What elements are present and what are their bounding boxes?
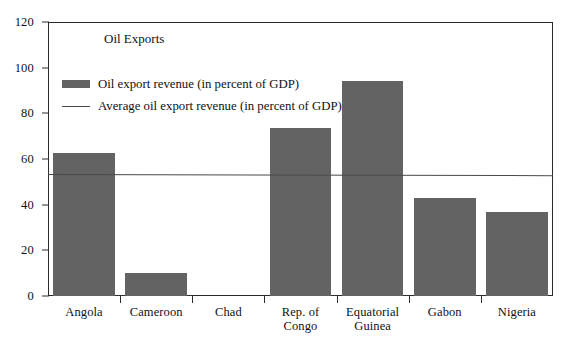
chart-figure: 020406080100120 AngolaCameroonChadRep. o… [0, 0, 566, 346]
x-axis-tick-label: Nigeria [498, 305, 536, 319]
legend-item: Oil export revenue (in percent of GDP) [62, 73, 392, 95]
x-axis: AngolaCameroonChadRep. of CongoEquatoria… [0, 0, 566, 346]
x-axis-tick-mark [120, 296, 121, 303]
x-axis-tick-mark [481, 296, 482, 303]
x-axis-tick-mark [409, 296, 410, 303]
legend-item-label: Average oil export revenue (in percent o… [98, 99, 342, 114]
chart-title: Oil Exports [104, 31, 164, 47]
legend-line-swatch-icon [62, 106, 90, 107]
x-axis-tick-mark [337, 296, 338, 303]
x-axis-tick-label: Cameroon [130, 305, 183, 319]
legend-bar-swatch-icon [62, 80, 90, 88]
x-axis-tick-label: Chad [215, 305, 242, 319]
x-axis-tick-label: Gabon [428, 305, 462, 319]
x-axis-tick-label: Equatorial Guinea [346, 305, 399, 333]
x-axis-tick-mark [264, 296, 265, 303]
x-axis-tick-mark [192, 296, 193, 303]
x-axis-tick-label: Angola [65, 305, 102, 319]
legend-item: Average oil export revenue (in percent o… [62, 95, 392, 117]
legend-item-label: Oil export revenue (in percent of GDP) [98, 77, 299, 92]
x-axis-tick-label: Rep. of Congo [282, 305, 320, 333]
chart-legend: Oil export revenue (in percent of GDP)Av… [62, 73, 392, 117]
